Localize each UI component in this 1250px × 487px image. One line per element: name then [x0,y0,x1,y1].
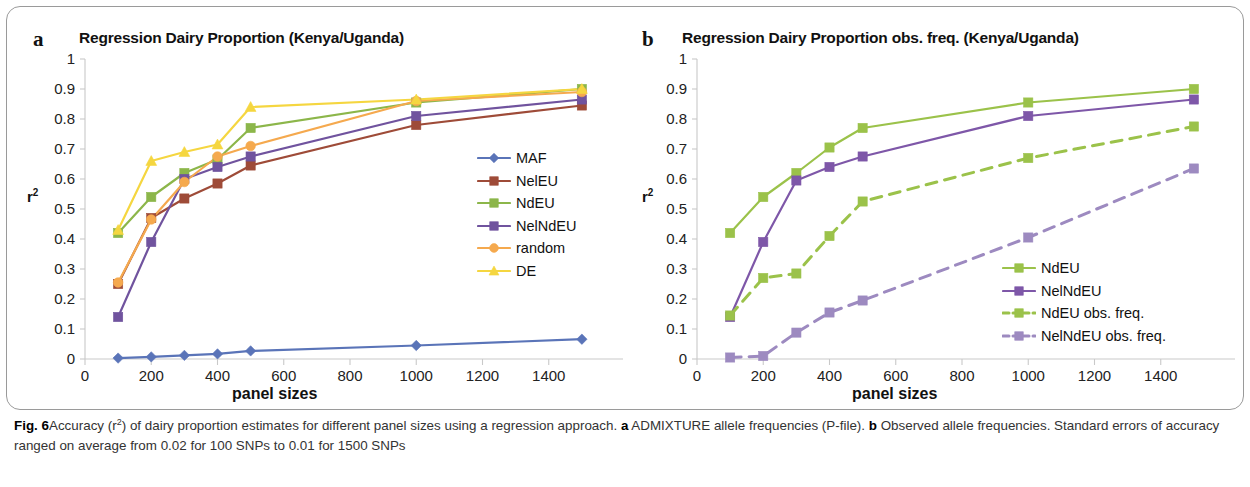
y-axis-tick-label: 0.7 [645,141,687,156]
y-axis-tick-label: 0.2 [645,291,687,306]
legend-item-neleu[interactable]: NelEU [477,170,576,193]
caption-text-3: ADMIXTURE allele frequencies (P-file). [628,418,868,433]
y-axis-tick-label: 0.8 [645,111,687,126]
x-axis-tick-label: 400 [807,368,853,383]
legend-label: NdEU [1041,260,1080,276]
legend-label: NdEU [516,195,555,211]
panel-b-plot [627,7,1245,411]
legend-label: random [516,240,565,256]
legend-item-random[interactable]: random [477,237,576,260]
x-axis-tick-label: 200 [128,368,174,383]
y-axis-tick-label: 0.9 [33,81,75,96]
y-axis-tick-label: 1 [33,51,75,66]
x-axis-tick-label: 1200 [1072,368,1118,383]
legend-item-maf[interactable]: MAF [477,147,576,170]
x-axis-tick-label: 200 [740,368,786,383]
x-axis-tick-label: 1000 [393,368,439,383]
legend-item-ndeu[interactable]: NdEU [477,192,576,215]
y-axis-tick-label: 0 [645,351,687,366]
y-axis-tick-label: 0.3 [33,261,75,276]
legend-item-ndeu-obs-freq[interactable]: NdEU obs. freq. [1002,302,1166,325]
y-axis-tick-label: 0.6 [645,171,687,186]
legend-label: DE [516,263,536,279]
legend-marker-icon [1002,284,1036,298]
legend-item-ndeu[interactable]: NdEU [1002,257,1166,280]
y-axis-tick-label: 0.3 [645,261,687,276]
panel-b: b Regression Dairy Proportion obs. freq.… [627,7,1245,411]
legend-item-de[interactable]: DE [477,260,576,283]
panel-a: a Regression Dairy Proportion (Kenya/Uga… [7,7,635,411]
x-axis-tick-label: 600 [873,368,919,383]
x-axis-tick-label: 0 [62,368,108,383]
legend-label: NelNdEU obs. freq. [1041,328,1166,344]
y-axis-tick-label: 0.2 [33,291,75,306]
x-axis-tick-label: 0 [674,368,720,383]
legend-marker-icon [1002,261,1036,275]
legend-label: NelEU [516,173,558,189]
y-axis-tick-label: 0 [33,351,75,366]
y-axis-tick-label: 0.1 [33,321,75,336]
y-axis-tick-label: 0.7 [33,141,75,156]
legend-marker-icon [477,241,511,255]
y-axis-tick-label: 0.6 [33,171,75,186]
y-axis-tick-label: 0.4 [33,231,75,246]
caption-text-2: ) of dairy proportion estimates for diff… [122,418,621,433]
legend-item-nelndeu-obs-freq[interactable]: NelNdEU obs. freq. [1002,325,1166,348]
x-axis-tick-label: 1400 [526,368,572,383]
legend-label: NdEU obs. freq. [1041,305,1144,321]
panel-b-legend: NdEUNelNdEUNdEU obs. freq.NelNdEU obs. f… [1002,257,1166,347]
figure-caption: Fig. 6Accuracy (r2) of dairy proportion … [14,416,1240,455]
y-axis-tick-label: 0.8 [33,111,75,126]
legend-label: NelNdEU [516,218,576,234]
x-axis-tick-label: 800 [327,368,373,383]
legend-marker-icon [1002,329,1036,343]
y-axis-tick-label: 0.5 [645,201,687,216]
x-axis-tick-label: 1000 [1005,368,1051,383]
figure-frame: a Regression Dairy Proportion (Kenya/Uga… [6,6,1244,410]
legend-marker-icon [1002,306,1036,320]
y-axis-tick-label: 0.9 [645,81,687,96]
legend-marker-icon [477,219,511,233]
x-axis-tick-label: 400 [195,368,241,383]
legend-marker-icon [477,174,511,188]
x-axis-tick-label: 800 [939,368,985,383]
y-axis-tick-label: 0.1 [645,321,687,336]
legend-marker-icon [477,264,511,278]
x-axis-tick-label: 1200 [460,368,506,383]
x-axis-tick-label: 1400 [1138,368,1184,383]
legend-marker-icon [477,151,511,165]
y-axis-tick-label: 0.4 [645,231,687,246]
y-axis-tick-label: 1 [645,51,687,66]
caption-label-b: b [869,418,877,433]
caption-figure-number: Fig. 6 [14,418,49,433]
legend-marker-icon [477,196,511,210]
caption-text-1: Accuracy (r [49,418,117,433]
legend-item-nelndeu[interactable]: NelNdEU [477,215,576,238]
legend-label: NelNdEU [1041,283,1101,299]
x-axis-tick-label: 600 [261,368,307,383]
legend-label: MAF [516,150,547,166]
panel-a-legend: MAFNelEUNdEUNelNdEUrandomDE [477,147,576,282]
legend-item-nelndeu[interactable]: NelNdEU [1002,280,1166,303]
y-axis-tick-label: 0.5 [33,201,75,216]
